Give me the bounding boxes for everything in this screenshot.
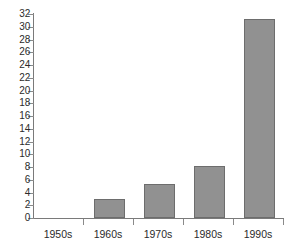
y-axis-tick-label: 6 xyxy=(6,175,30,185)
y-axis-tick-label: 8 xyxy=(6,162,30,172)
y-axis-tick-label: 32 xyxy=(6,9,30,19)
x-axis-label-1960s: 1960s xyxy=(80,228,136,240)
y-axis-tick-label: 18 xyxy=(6,98,30,108)
y-axis-tick-label: 0 xyxy=(6,213,30,223)
y-axis-tick-label: 4 xyxy=(6,188,30,198)
y-axis-tick-label: 2 xyxy=(6,200,30,210)
y-axis-tick-label: 14 xyxy=(6,124,30,134)
plot-area xyxy=(34,14,284,218)
bar-1960s xyxy=(94,199,125,218)
x-axis-tick xyxy=(183,219,184,225)
x-axis-label-1980s: 1980s xyxy=(180,228,236,240)
y-axis-tick-label: 24 xyxy=(6,60,30,70)
x-axis-line xyxy=(33,218,284,219)
x-axis-label-1950s: 1950s xyxy=(30,228,86,240)
bar-chart: 02468101214161820222426283032 1950s1960s… xyxy=(0,0,292,246)
x-axis-tick xyxy=(233,219,234,225)
x-axis-label-1970s: 1970s xyxy=(130,228,186,240)
x-axis-tick xyxy=(283,219,284,225)
y-axis-tick-label: 12 xyxy=(6,137,30,147)
bar-1990s xyxy=(244,19,275,218)
y-axis-tick-label: 22 xyxy=(6,73,30,83)
bar-1980s xyxy=(194,166,225,218)
y-axis-tick-label: 28 xyxy=(6,35,30,45)
y-axis-tick-label: 16 xyxy=(6,111,30,121)
x-axis-tick xyxy=(83,219,84,225)
x-axis-label-1990s: 1990s xyxy=(230,228,286,240)
y-axis-tick-label: 26 xyxy=(6,47,30,57)
y-axis-tick-label: 10 xyxy=(6,149,30,159)
x-axis-tick xyxy=(133,219,134,225)
y-axis-tick-label: 30 xyxy=(6,22,30,32)
bar-1970s xyxy=(144,184,175,218)
y-axis-tick-label: 20 xyxy=(6,86,30,96)
